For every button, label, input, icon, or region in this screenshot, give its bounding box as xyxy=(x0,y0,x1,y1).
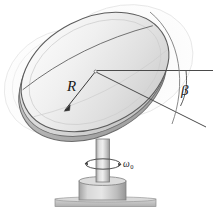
dish-diagram: ω0 xyxy=(0,0,214,222)
spin-rate-label: ω0 xyxy=(123,159,133,170)
pedestal-column xyxy=(96,139,110,182)
figure-container: ω0 xyxy=(0,0,214,222)
pedestal-group: ω0 xyxy=(55,139,156,207)
tilt-angle-label: β xyxy=(180,82,189,98)
spin-rate-subscript: 0 xyxy=(130,163,133,170)
radius-label: R xyxy=(66,78,76,94)
dish-center-hub xyxy=(94,70,97,73)
